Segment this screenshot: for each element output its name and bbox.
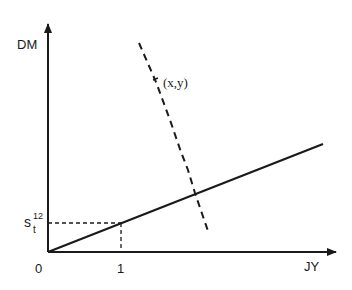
origin-label: 0 <box>35 261 42 276</box>
y-tick-label-subscript: t <box>33 224 36 235</box>
solid-line <box>48 144 323 252</box>
dashed-curve <box>139 43 209 234</box>
x-axis-label: JY <box>304 259 320 274</box>
exchange-rate-diagram: DM JY 0 1 s 12 t (x,y) <box>0 0 352 290</box>
curve-label: (x,y) <box>163 75 188 90</box>
x-tick-label: 1 <box>117 261 124 276</box>
y-tick-label-base: s <box>24 214 31 230</box>
y-axis-label: DM <box>17 37 37 52</box>
y-tick-label-superscript: 12 <box>33 211 43 221</box>
